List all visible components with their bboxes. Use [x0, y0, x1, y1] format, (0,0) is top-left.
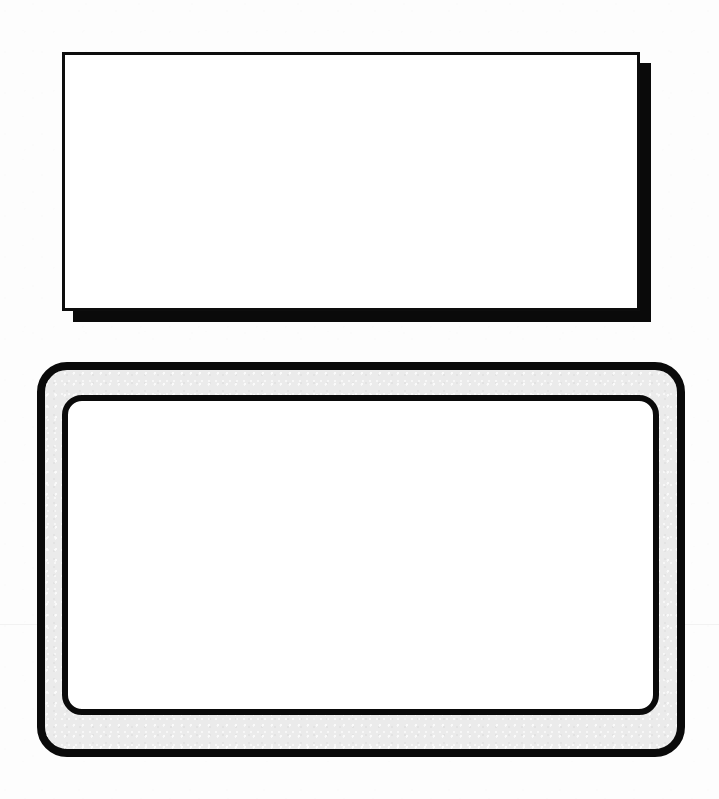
top-rectangle-outline: [62, 52, 640, 311]
page-canvas: [0, 0, 719, 799]
top-rectangle-figure: [62, 52, 651, 322]
bottom-rounded-frame-figure: [37, 362, 685, 757]
inner-rounded-rectangle-border: [62, 395, 659, 715]
outer-rounded-rectangle-border: [37, 362, 685, 757]
